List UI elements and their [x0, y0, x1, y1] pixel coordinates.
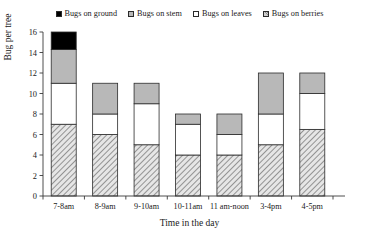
bar-group: [93, 83, 118, 196]
bar-segment: [217, 135, 242, 156]
y-tick-label: 0: [33, 192, 37, 201]
y-tick-label: 12: [29, 69, 37, 78]
bar-group: [51, 32, 76, 196]
bar-segment: [258, 145, 283, 196]
bar-group: [176, 114, 201, 196]
plot-svg: 02468101214167-8am8-9am9-10am10-11am11 a…: [0, 26, 379, 226]
bar-group: [258, 73, 283, 196]
plot-area: Bug per tree 02468101214167-8am8-9am9-10…: [0, 26, 379, 238]
bar-group: [134, 83, 159, 196]
bar-segment: [93, 83, 118, 114]
y-tick-label: 8: [33, 110, 37, 119]
bar-group: [217, 114, 242, 196]
legend-item-bugs-on-stem: Bugs on stem: [128, 9, 182, 18]
x-tick-label: 10-11am: [174, 202, 203, 211]
legend-item-bugs-on-leaves: Bugs on leaves: [193, 9, 252, 18]
y-tick-label: 6: [33, 131, 37, 140]
bar-segment: [134, 104, 159, 145]
legend-swatch-stem-icon: [128, 11, 134, 17]
bar-segment: [51, 32, 76, 49]
bar-segment: [134, 83, 159, 104]
bar-segment: [51, 124, 76, 196]
y-tick-label: 4: [33, 151, 38, 160]
legend-swatch-berries-icon: [263, 11, 269, 17]
legend-item-bugs-on-ground: Bugs on ground: [56, 9, 118, 18]
y-tick-label: 14: [29, 49, 38, 58]
bar-segment: [258, 73, 283, 114]
x-tick-label: 7-8am: [53, 202, 75, 211]
y-tick-label: 10: [29, 90, 37, 99]
x-axis-title: Time in the day: [0, 218, 379, 228]
legend-label-ground: Bugs on ground: [65, 9, 118, 18]
x-tick-label: 9-10am: [134, 202, 160, 211]
bar-segment: [217, 114, 242, 135]
bar-segment: [300, 129, 325, 196]
bar-segment: [134, 145, 159, 196]
bars-layer: [51, 32, 325, 196]
bug-per-tree-stacked-bar-chart: Bugs on ground Bugs on stem Bugs on leav…: [0, 0, 379, 238]
bar-segment: [176, 124, 201, 155]
y-tick-label: 16: [29, 28, 37, 37]
bar-segment: [300, 94, 325, 130]
bar-segment: [93, 135, 118, 197]
x-tick-label: 8-9am: [95, 202, 117, 211]
legend-label-berries: Bugs on berries: [272, 9, 324, 18]
x-tick-label: 11 am-noon: [210, 202, 249, 211]
bar-segment: [176, 114, 201, 124]
chart-legend: Bugs on ground Bugs on stem Bugs on leav…: [0, 9, 379, 18]
bar-group: [300, 73, 325, 196]
bar-segment: [51, 49, 76, 83]
bar-segment: [51, 83, 76, 124]
x-tick-label: 3-4pm: [260, 202, 282, 211]
x-tick-label: 4-5pm: [302, 202, 324, 211]
legend-swatch-ground-icon: [56, 11, 62, 17]
bar-segment: [93, 114, 118, 135]
bar-segment: [176, 155, 201, 196]
bar-segment: [300, 73, 325, 94]
legend-label-stem: Bugs on stem: [137, 9, 182, 18]
bar-segment: [217, 155, 242, 196]
legend-swatch-leaves-icon: [193, 11, 199, 17]
legend-label-leaves: Bugs on leaves: [202, 9, 252, 18]
bar-segment: [258, 114, 283, 145]
y-tick-label: 2: [33, 172, 37, 181]
legend-item-bugs-on-berries: Bugs on berries: [263, 9, 324, 18]
